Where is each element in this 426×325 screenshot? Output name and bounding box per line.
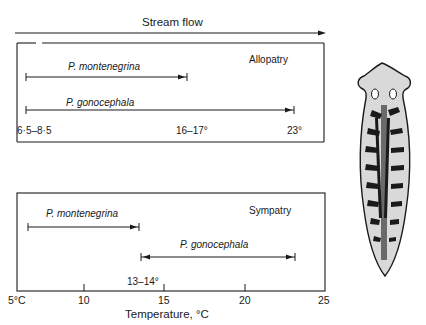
planarian-illustration bbox=[358, 63, 410, 276]
stream-flow-label: Stream flow bbox=[142, 16, 203, 28]
allopatry-panel-label: Allopatry bbox=[249, 54, 288, 65]
allopatry-mid-label: 16–17° bbox=[176, 125, 208, 136]
sympatry-gonocephala-label: P. gonocephala bbox=[180, 239, 248, 250]
axis-label: Temperature, °C bbox=[125, 308, 209, 320]
sympatry-montenegrina-bar bbox=[28, 223, 139, 231]
sympatry-panel-label: Sympatry bbox=[249, 205, 291, 216]
range-diagram bbox=[0, 0, 426, 325]
axis-tick-10: 10 bbox=[78, 294, 90, 306]
allopatry-end-label: 23° bbox=[287, 125, 302, 136]
axis-tick-25: 25 bbox=[318, 294, 330, 306]
sympatry-gonocephala-bar bbox=[141, 253, 295, 261]
axis-tick-5: 5°C bbox=[8, 294, 26, 306]
axis-tick-20: 20 bbox=[239, 294, 251, 306]
temperature-axis-ticks bbox=[84, 284, 245, 291]
allopatry-montenegrina-label: P. montenegrina bbox=[68, 61, 140, 72]
sympatry-montenegrina-label: P. montenegrina bbox=[46, 208, 118, 219]
allopatry-gonocephala-label: P. gonocephala bbox=[66, 97, 134, 108]
sympatry-boundary-label: 13–14° bbox=[127, 276, 159, 287]
axis-tick-15: 15 bbox=[158, 294, 170, 306]
allopatry-montenegrina-bar bbox=[26, 73, 187, 81]
allopatry-start-label: 6·5–8·5 bbox=[17, 125, 51, 136]
stream-flow-arrow bbox=[15, 31, 326, 36]
